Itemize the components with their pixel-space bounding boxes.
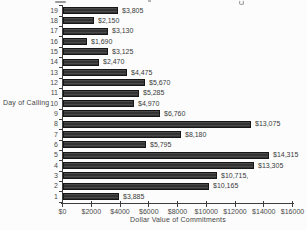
x-tick [91,201,92,207]
bar-value-label: $14,315 [273,151,298,159]
bar [63,48,108,55]
x-tick-label: $12000 [219,208,251,215]
y-tick-label: 1 [30,193,58,201]
x-tick [263,201,264,207]
y-tick-label: 10 [30,100,58,108]
y-tick-label: 2 [30,182,58,190]
y-tick-label: 14 [30,58,58,66]
bar-value-label: $13,305 [258,162,283,170]
y-tick-label: 19 [30,7,58,15]
bar-value-label: $4,970 [138,100,159,108]
x-tick-label: $0 [47,208,79,215]
x-tick-label: $4000 [104,208,136,215]
y-tick-label: 5 [30,151,58,159]
bar [63,17,94,24]
bar [63,38,87,45]
x-tick [292,201,293,207]
y-tick-label: 18 [30,17,58,25]
x-tick [206,201,207,207]
bar-value-label: $6,760 [164,110,185,118]
x-tick-label: $14000 [248,208,280,215]
bar-value-label: $1,690 [91,38,112,46]
x-axis-title: Dollar Value of Commitments [98,216,258,223]
y-tick-label: 7 [30,131,58,139]
bar [63,28,108,35]
y-tick-label: 3 [30,172,58,180]
y-tick [59,129,63,130]
x-tick [235,201,236,207]
x-tick-label: $16000 [277,208,307,215]
bar-value-label: $5,670 [149,79,170,87]
bar [63,79,145,86]
x-tick-label: $6000 [133,208,165,215]
y-tick [59,36,63,37]
bar-value-label: $3,885 [123,193,144,201]
bar-value-label: $2,470 [103,58,124,66]
y-tick-label: 15 [30,48,58,56]
y-tick-label: 17 [30,27,58,35]
bar [63,69,127,76]
x-tick [148,201,149,207]
bar-value-label: $3,805 [122,7,143,15]
x-tick-label: $10000 [190,208,222,215]
commitments-bar-chart: Day of Calling 19$3,80518$2,15017$3,1301… [0,0,306,230]
bar-value-label: $5,285 [143,89,164,97]
x-tick [62,201,63,207]
y-tick [59,98,63,99]
bar [63,183,209,190]
bar [63,59,99,66]
bar [63,110,160,117]
bar-value-label: $10,715, [221,172,248,180]
y-tick-label: 4 [30,162,58,170]
plot-area: 19$3,80518$2,15017$3,13016$1,69015$3,125… [0,0,306,230]
bar-value-label: $8,180 [185,131,206,139]
y-tick [59,191,63,192]
x-tick [177,201,178,207]
bar-value-label: $4,475 [131,69,152,77]
bar [63,7,118,14]
y-tick [59,67,63,68]
bar [63,90,139,97]
bar-value-label: $3,130 [112,27,133,35]
bar [63,162,254,169]
bar-value-label: $10,165 [213,182,238,190]
bar [63,152,269,159]
x-tick-label: $8000 [162,208,194,215]
y-tick-label: 6 [30,141,58,149]
y-tick-label: 16 [30,38,58,46]
bar [63,131,181,138]
bar [63,121,251,128]
bar-value-label: $5,795 [150,141,171,149]
x-tick-label: $2000 [75,208,107,215]
bar [63,141,146,148]
bar-value-label: $13,075 [255,120,280,128]
x-tick [120,201,121,207]
y-tick-label: 12 [30,79,58,87]
y-tick [59,160,63,161]
bar [63,193,119,200]
bar [63,100,134,107]
y-tick [59,5,63,6]
bar [63,172,217,179]
y-tick-label: 13 [30,69,58,77]
bar-value-label: $3,125 [112,48,133,56]
y-tick-label: 11 [30,89,58,97]
y-tick-label: 8 [30,120,58,128]
bar-value-label: $2,150 [98,17,119,25]
y-tick-label: 9 [30,110,58,118]
